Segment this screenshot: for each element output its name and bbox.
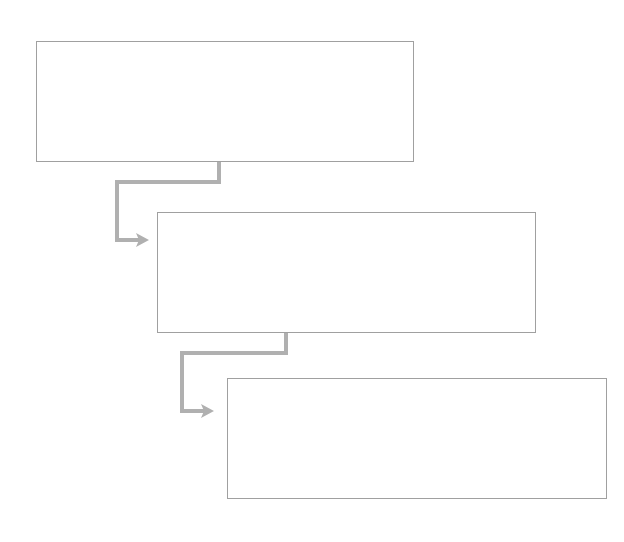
step-box-2-label xyxy=(158,213,535,332)
step-box-3 xyxy=(227,378,607,499)
step-box-3-label xyxy=(228,379,606,498)
step-box-2 xyxy=(157,212,536,333)
step-box-1 xyxy=(36,41,414,162)
step-box-1-label xyxy=(37,42,413,161)
